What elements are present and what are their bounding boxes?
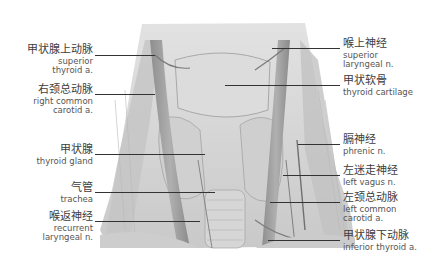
label-en: left vagus n. bbox=[343, 178, 398, 188]
label-recurrent-laryngeal-nerve: 喉返神经 recurrent laryngeal n. bbox=[43, 211, 93, 243]
leader-line bbox=[283, 175, 340, 176]
label-left-common-carotid: 左颈总动脉 left common carotid a. bbox=[343, 192, 398, 224]
label-superior-laryngeal-nerve: 喉上神经 superior laryngeal n. bbox=[343, 38, 393, 70]
label-en: laryngeal n. bbox=[43, 233, 93, 243]
leader-line bbox=[298, 144, 340, 145]
leader-line bbox=[95, 94, 155, 95]
label-en: thyroid a. bbox=[27, 66, 93, 76]
label-en: carotid a. bbox=[343, 214, 398, 224]
label-zh: 甲状腺下动脉 bbox=[343, 230, 417, 243]
leader-line bbox=[225, 85, 340, 86]
leader-line bbox=[268, 240, 340, 241]
label-en: carotid a. bbox=[33, 106, 93, 116]
label-zh: 右颈总动脉 bbox=[33, 84, 93, 97]
label-zh: 甲状腺上动脉 bbox=[27, 44, 93, 57]
label-en: laryngeal n. bbox=[343, 60, 393, 70]
label-zh: 甲状软骨 bbox=[343, 75, 413, 88]
label-phrenic-nerve: 膈神经 phrenic n. bbox=[343, 134, 386, 156]
label-en: thyroid gland bbox=[37, 157, 93, 167]
label-zh: 甲状腺 bbox=[37, 144, 93, 157]
leader-line bbox=[270, 202, 340, 203]
label-superior-thyroid-artery: 甲状腺上动脉 superior thyroid a. bbox=[27, 44, 93, 76]
label-zh: 喉上神经 bbox=[343, 38, 393, 51]
leader-line bbox=[272, 48, 340, 49]
label-inferior-thyroid-artery: 甲状腺下动脉 inferior thyroid a. bbox=[343, 230, 417, 252]
label-thyroid-gland: 甲状腺 thyroid gland bbox=[37, 144, 93, 166]
label-en: thyroid cartilage bbox=[343, 88, 413, 98]
label-en: inferior thyroid a. bbox=[343, 243, 417, 253]
label-zh: 左迷走神经 bbox=[343, 165, 398, 178]
label-right-common-carotid: 右颈总动脉 right common carotid a. bbox=[33, 84, 93, 116]
leader-line bbox=[95, 154, 205, 155]
label-trachea: 气管 trachea bbox=[60, 182, 93, 204]
label-zh: 喉返神经 bbox=[43, 211, 93, 224]
label-zh: 左颈总动脉 bbox=[343, 192, 398, 205]
leader-line bbox=[95, 55, 155, 56]
leader-line bbox=[95, 192, 215, 193]
label-thyroid-cartilage: 甲状软骨 thyroid cartilage bbox=[343, 75, 413, 97]
label-zh: 气管 bbox=[60, 182, 93, 195]
label-en: phrenic n. bbox=[343, 147, 386, 157]
label-zh: 膈神经 bbox=[343, 134, 386, 147]
leader-line bbox=[95, 221, 200, 222]
label-left-vagus-nerve: 左迷走神经 left vagus n. bbox=[343, 165, 398, 187]
label-en: trachea bbox=[60, 195, 93, 205]
